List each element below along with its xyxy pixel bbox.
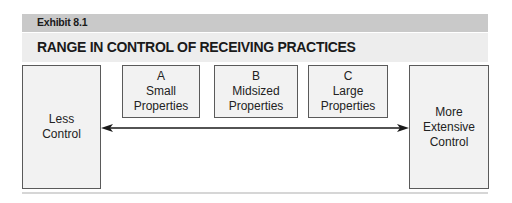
category-a-line-2: Properties bbox=[134, 99, 189, 114]
category-a-box: A Small Properties bbox=[122, 65, 200, 118]
category-a-line-1: Small bbox=[146, 84, 176, 99]
category-a-letter: A bbox=[157, 69, 165, 84]
exhibit-label-bar: Exhibit 8.1 bbox=[22, 14, 488, 32]
diagram-title: RANGE IN CONTROL OF RECEIVING PRACTICES bbox=[37, 39, 356, 55]
bottom-divider bbox=[22, 192, 488, 194]
title-band: RANGE IN CONTROL OF RECEIVING PRACTICES bbox=[22, 33, 488, 62]
less-control-line-2: Control bbox=[42, 127, 81, 142]
more-control-line-3: Control bbox=[430, 135, 469, 150]
more-control-line-1: More bbox=[435, 105, 462, 120]
category-b-line-1: Midsized bbox=[232, 84, 279, 99]
double-headed-arrow-icon bbox=[101, 122, 409, 134]
more-control-line-2: Extensive bbox=[423, 120, 475, 135]
less-control-line-1: Less bbox=[49, 112, 74, 127]
category-c-line-2: Properties bbox=[321, 99, 376, 114]
category-c-letter: C bbox=[344, 69, 353, 84]
category-c-box: C Large Properties bbox=[308, 65, 388, 118]
category-b-box: B Midsized Properties bbox=[214, 65, 298, 118]
less-control-box: Less Control bbox=[22, 65, 101, 189]
more-extensive-control-box: More Extensive Control bbox=[409, 65, 489, 189]
category-b-line-2: Properties bbox=[229, 99, 284, 114]
exhibit-label: Exhibit 8.1 bbox=[37, 16, 87, 28]
category-b-letter: B bbox=[252, 69, 260, 84]
category-c-line-1: Large bbox=[333, 84, 364, 99]
